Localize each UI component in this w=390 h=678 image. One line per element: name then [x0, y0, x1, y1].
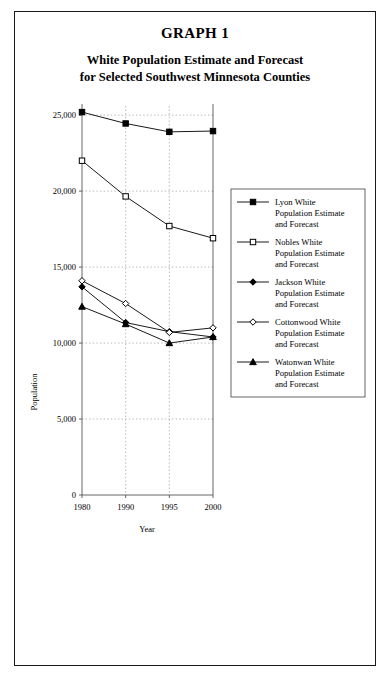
legend-item-label: Population Estimate — [275, 328, 345, 338]
line-chart: 05,00010,00015,00020,00025,000 198019901… — [15, 92, 374, 602]
x-axis-tick-label: 1990 — [117, 502, 134, 512]
x-axis-tick-label: 2000 — [205, 502, 222, 512]
legend-sample-marker — [250, 239, 255, 244]
legend-item-label: Cottonwood White — [275, 317, 341, 327]
x-axis-tick-label: 1995 — [161, 502, 178, 512]
figure-number: GRAPH 1 — [15, 25, 375, 42]
y-axis-title: Population — [29, 373, 39, 411]
legend-item-label: and Forecast — [275, 379, 319, 389]
data-series — [79, 158, 215, 241]
series-marker — [122, 300, 128, 306]
series-marker — [210, 128, 215, 133]
series-marker — [123, 194, 128, 199]
y-axis-tick-labels: 05,00010,00015,00020,00025,000 — [53, 110, 82, 500]
data-series — [79, 284, 216, 341]
y-axis-tick-label: 5,000 — [57, 414, 76, 424]
y-axis-tick-label: 25,000 — [53, 110, 76, 120]
series-line — [82, 307, 213, 343]
data-series — [79, 109, 215, 134]
chart-legend: Lyon WhitePopulation Estimateand Forecas… — [231, 189, 365, 397]
figure-title-line-2: for Selected Southwest Minnesota Countie… — [29, 69, 361, 86]
legend-item-label: Jackson White — [275, 277, 325, 287]
x-axis-title: Year — [139, 524, 155, 534]
legend-item-label: and Forecast — [275, 219, 319, 229]
grid-lines — [82, 106, 213, 495]
data-series-layer — [79, 109, 217, 345]
y-axis-tick-label: 20,000 — [53, 186, 76, 196]
x-axis-tick-labels: 1980199019952000 — [74, 495, 222, 512]
y-axis-tick-label: 0 — [72, 490, 76, 500]
chart-plot-area: 05,00010,00015,00020,00025,000 198019901… — [15, 92, 375, 602]
legend-item-label: Population Estimate — [275, 368, 345, 378]
series-marker — [210, 235, 215, 240]
figure-title-line-1: White Population Estimate and Forecast — [29, 52, 361, 69]
series-marker — [210, 325, 216, 331]
series-marker — [79, 303, 86, 309]
chart-axes — [82, 104, 213, 495]
series-marker — [167, 223, 172, 228]
series-marker — [79, 109, 84, 114]
x-axis-tick-label: 1980 — [74, 502, 91, 512]
legend-item-label: and Forecast — [275, 339, 319, 349]
legend-sample-marker — [250, 199, 255, 204]
legend-item-label: Watonwan White — [275, 357, 335, 367]
data-series — [79, 303, 217, 345]
series-marker — [79, 278, 85, 284]
series-marker — [123, 121, 128, 126]
legend-item-label: and Forecast — [275, 259, 319, 269]
legend-item-label: Population Estimate — [275, 248, 345, 258]
legend-item-label: Population Estimate — [275, 288, 345, 298]
series-marker — [167, 129, 172, 134]
y-axis-tick-label: 15,000 — [53, 262, 76, 272]
legend-item-label: Lyon White — [275, 197, 316, 207]
series-line — [82, 281, 213, 333]
series-marker — [79, 158, 84, 163]
legend-item-label: Population Estimate — [275, 208, 345, 218]
legend-item-label: Nobles White — [275, 237, 323, 247]
figure-frame: GRAPH 1 White Population Estimate and Fo… — [14, 11, 376, 666]
y-axis-tick-label: 10,000 — [53, 338, 76, 348]
series-line — [82, 287, 213, 337]
legend-item-label: and Forecast — [275, 299, 319, 309]
figure-title: White Population Estimate and Forecast f… — [15, 52, 375, 86]
series-line — [82, 161, 213, 238]
